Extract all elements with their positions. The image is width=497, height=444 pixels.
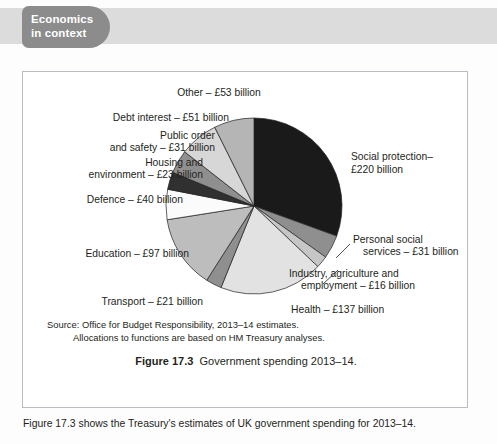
tab-label-line-1: Economics bbox=[31, 13, 110, 27]
slice-label-public-order-line-2: and safety – £31 billion bbox=[33, 142, 215, 154]
slice-label-housing-line-2: environment – £23 billion bbox=[23, 169, 203, 181]
tab-label-line-2: in context bbox=[31, 27, 110, 41]
source-line-1: Source: Office for Budget Responsibility… bbox=[47, 318, 325, 331]
slice-label-debt-interest: Debt interest – £51 billion bbox=[33, 112, 229, 124]
figure-caption-title: Government spending 2013–14. bbox=[200, 355, 357, 367]
body-paragraph: Figure 17.3 shows the Treasury's estimat… bbox=[23, 418, 416, 429]
slice-label-housing-line-1: Housing and bbox=[33, 157, 203, 169]
slice-label-personal-social-services-line-1: Personal social bbox=[353, 234, 493, 246]
slice-label-social-protection-line-2: £220 billion bbox=[351, 164, 491, 176]
slice-label-education: Education – £97 billion bbox=[33, 248, 189, 260]
source-line-2: Allocations to functions are based on HM… bbox=[47, 331, 325, 344]
figure-caption: Figure 17.3 Government spending 2013–14. bbox=[23, 355, 469, 367]
leader-line-personal-social-services bbox=[336, 244, 350, 258]
slice-label-public-order-line-1: Public order bbox=[33, 130, 215, 142]
slice-label-industry-line-1: Industry, agriculture and bbox=[289, 268, 469, 280]
slice-label-social-protection-line-1: Social protection– bbox=[351, 151, 491, 163]
figure-caption-number: Figure 17.3 bbox=[135, 355, 193, 367]
slice-label-transport: Transport – £21 billion bbox=[43, 296, 203, 308]
slice-label-health: Health – £137 billion bbox=[291, 304, 451, 316]
slice-label-defence: Defence – £40 billion bbox=[33, 194, 183, 206]
figure-source: Source: Office for Budget Responsibility… bbox=[47, 318, 325, 344]
slice-label-personal-social-services-line-2: services – £31 billion bbox=[363, 246, 497, 258]
slice-label-other: Other – £53 billion bbox=[129, 87, 309, 99]
slice-label-industry-line-2: employment – £16 billion bbox=[301, 280, 481, 292]
figure-frame: Other – £53 billion Debt interest – £51 … bbox=[22, 71, 468, 408]
economics-in-context-tab: Economics in context bbox=[22, 6, 110, 48]
